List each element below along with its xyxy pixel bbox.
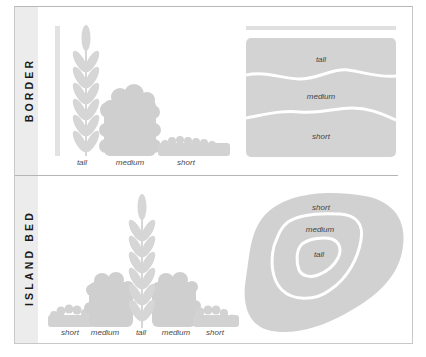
medium-shrub-icon [99, 84, 161, 156]
island-zone-label-short: short [312, 203, 330, 212]
tall-plant-icon-center [126, 194, 158, 328]
island-plant-label-medium-left: medium [91, 328, 119, 337]
border-plant-label-short: short [177, 158, 195, 167]
island-bed-plan-diagram [245, 193, 404, 332]
border-zone-label-short: short [312, 132, 330, 141]
border-zone-label-medium: medium [307, 92, 335, 101]
tall-plant-icon [70, 25, 102, 156]
island-plant-label-short-right: short [206, 328, 224, 337]
border-zone-label-tall: tall [316, 55, 326, 64]
island-zone-label-tall: tall [314, 250, 324, 259]
island-zone-label-medium: medium [306, 225, 334, 234]
fence-post-icon [55, 26, 60, 156]
illustrations [0, 0, 426, 357]
island-plant-label-tall: tall [136, 328, 146, 337]
short-plant-icon-right [193, 306, 239, 328]
island-plant-label-medium-right: medium [162, 328, 190, 337]
medium-shrub-icon-left [84, 272, 137, 327]
short-plant-icon [158, 136, 230, 156]
border-plant-label-tall: tall [77, 158, 87, 167]
island-plant-label-short-left: short [61, 328, 79, 337]
border-plant-label-medium: medium [116, 158, 144, 167]
